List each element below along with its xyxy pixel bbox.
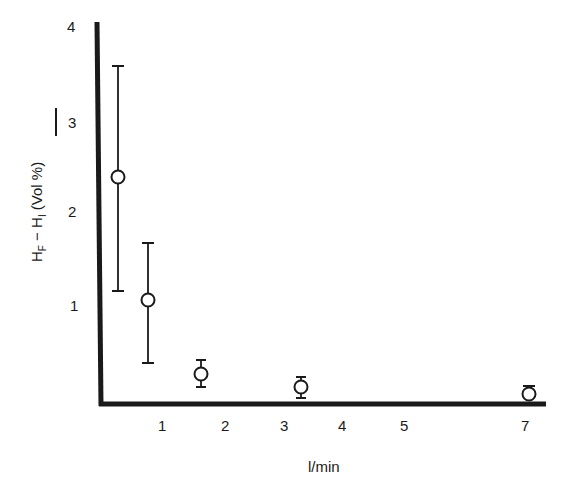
data-point-4 (295, 377, 308, 398)
x-tick-3: 3 (280, 417, 288, 434)
chart: 4 3 2 1 HF − HI (Vol %) 1 2 3 4 5 7 l/mi… (0, 0, 569, 490)
y-tick-2: 2 (68, 203, 76, 220)
y-axis (97, 22, 101, 406)
x-tick-2: 2 (221, 417, 229, 434)
data-point-5 (523, 386, 536, 401)
svg-text:HF − HI (Vol %): HF − HI (Vol %) (28, 162, 48, 262)
y-tick-4: 4 (67, 18, 75, 35)
y-tick-3: 3 (68, 114, 76, 131)
y-label-minus: − H (28, 217, 45, 245)
x-tick-5: 5 (400, 417, 408, 434)
y-axis-label: HF − HI (Vol %) (28, 162, 48, 262)
x-tick-7: 7 (521, 417, 529, 434)
y-label-unit: (Vol %) (28, 162, 45, 215)
y-tick-1: 1 (70, 297, 78, 314)
x-axis-label: l/min (308, 458, 340, 475)
data-point-3 (195, 360, 208, 387)
data-point-1 (112, 66, 125, 291)
x-tick-4: 4 (338, 417, 346, 434)
x-tick-1: 1 (158, 417, 166, 434)
y-label-h: H (28, 251, 45, 262)
data-point-2 (142, 243, 155, 363)
